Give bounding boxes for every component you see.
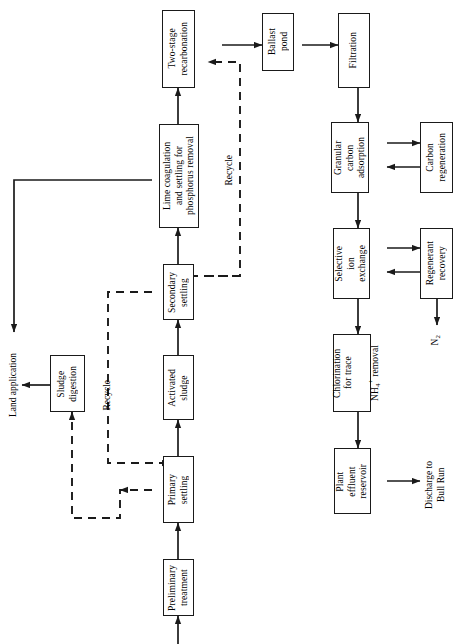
node-label: Activated sludge (167, 369, 190, 407)
node-carbon-regeneration[interactable]: Carbon regeneration (420, 122, 453, 193)
node-two-stage-recarbonation[interactable]: Two-stage recarbonation (162, 10, 195, 88)
node-label: Selective ion exchange (334, 245, 369, 282)
node-label: Granular carbon adsorption (333, 137, 368, 178)
label-land-application: Land application (6, 330, 22, 440)
node-filtration[interactable]: Filtration (338, 13, 370, 88)
node-chlorination[interactable]: Chlorination for trace NH4+ removal (333, 334, 371, 412)
node-primary-settling[interactable]: Primary settling (163, 456, 194, 523)
node-secondary-settling[interactable]: Secondary settling (163, 264, 194, 320)
connector-layer (0, 0, 458, 644)
node-plant-effluent-reservoir[interactable]: Plant effluent reservoir (334, 448, 371, 514)
node-label: Lime coagulation and settling for phosph… (162, 136, 197, 215)
label-nitrogen-gas: N2 (426, 325, 448, 355)
node-label: Sludge digestion (56, 366, 79, 402)
chlorination-formula: NH4+ removal (370, 345, 380, 401)
node-label: Carbon regeneration (425, 133, 448, 182)
edge-recycle-secondary-activated (108, 292, 170, 463)
node-regenerant-recovery[interactable]: Regenerant recovery (420, 228, 453, 299)
node-activated-sludge[interactable]: Activated sludge (163, 355, 194, 420)
node-selective-ion-exchange[interactable]: Selective ion exchange (333, 228, 370, 299)
node-label-chlorination: Chlorination for trace NH4+ removal (320, 345, 385, 401)
node-sludge-digestion[interactable]: Sludge digestion (50, 355, 85, 412)
label-recycle-lower: Recycle (100, 355, 116, 435)
node-label: Filtration (348, 32, 360, 68)
node-ballast-pond[interactable]: Ballast pond (262, 13, 294, 71)
node-label: Preliminary treatment (167, 565, 190, 611)
node-label: Two-stage recarbonation (167, 22, 190, 76)
node-lime-coagulation[interactable]: Lime coagulation and settling for phosph… (159, 124, 199, 228)
node-label: Regenerant recovery (425, 241, 448, 285)
label-discharge-bull-run: Discharge to Bull Run (420, 440, 450, 530)
chlorination-line1: Chlorination for trace (331, 348, 353, 397)
node-label: Primary settling (167, 474, 190, 505)
node-label: Ballast pond (267, 28, 290, 55)
node-preliminary-treatment[interactable]: Preliminary treatment (163, 559, 194, 616)
flowchart-canvas: Preliminary treatment Primary settling A… (0, 0, 458, 644)
node-label: Secondary settling (167, 272, 190, 313)
node-granular-carbon-adsorption[interactable]: Granular carbon adsorption (331, 122, 369, 193)
edge-lime-landapplication (14, 180, 152, 332)
node-label: Plant effluent reservoir (335, 464, 370, 499)
label-recycle-upper: Recycle (222, 130, 238, 210)
